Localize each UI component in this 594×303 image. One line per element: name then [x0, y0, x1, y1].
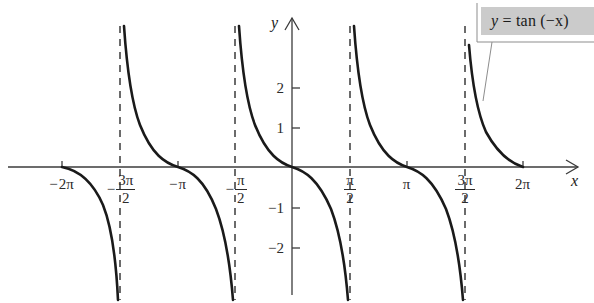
fraction-numerator: π: [235, 173, 247, 190]
x-ticklabel-neg-2pi-sign: −: [49, 177, 58, 192]
x-ticklabel-neg-2pi: −2π: [33, 176, 91, 192]
x-axis-label: x: [571, 172, 578, 190]
fraction-numerator: 3π: [455, 173, 474, 190]
legend-label-fn: tan (−x): [516, 12, 569, 29]
x-ticklabel-neg-3pi-over-2-fraction: 3π2: [116, 173, 135, 206]
legend-label-eq: =: [503, 12, 512, 29]
x-ticklabel-neg-pi-over-2: −π2: [207, 173, 265, 206]
fraction-numerator: π: [344, 173, 356, 190]
fraction-numerator: 3π: [116, 173, 135, 190]
x-ticklabel-neg-3pi-over-2: −3π2: [92, 173, 150, 206]
x-ticklabel-pi: π: [378, 176, 436, 192]
x-ticklabel-neg-pi-value: π: [178, 177, 187, 192]
fraction-denominator: 2: [455, 190, 474, 206]
legend-label: y = tan (−x): [491, 12, 569, 30]
y-ticklabel-2: 2: [262, 81, 284, 96]
fraction-denominator: 2: [235, 190, 247, 206]
x-ticklabel-2pi: 2π: [494, 176, 552, 192]
x-ticklabel-neg-3pi-over-2-sign: −: [107, 182, 116, 197]
x-ticklabel-2pi-value: 2π: [515, 177, 531, 192]
tan-branch-4: [354, 26, 463, 300]
x-ticklabel-neg-pi-over-2-fraction: π2: [235, 173, 247, 206]
x-ticklabel-pi-value: π: [403, 177, 412, 192]
x-ticklabel-neg-pi: −π: [149, 176, 207, 192]
y-axis-label: y: [271, 14, 278, 32]
x-ticklabel-3pi-over-2-fraction: 3π2: [455, 173, 474, 206]
x-ticklabel-neg-2pi-value: 2π: [59, 177, 75, 192]
legend-label-lhs: y: [491, 12, 498, 29]
y-ticklabel-1: 1: [262, 121, 284, 136]
fraction-denominator: 2: [116, 190, 135, 206]
y-axis: [285, 18, 300, 295]
tangent-function-plot: y = tan (−x) y x 2 1 −1 −2 −2π −3π2 −π −…: [0, 0, 594, 303]
legend-leader-line: [483, 42, 492, 101]
fraction-denominator: 2: [344, 190, 356, 206]
tan-branch-3: [239, 26, 348, 300]
plot-canvas: [0, 0, 594, 303]
tan-branch-5: [469, 45, 523, 167]
x-ticklabel-pi-over-2-fraction: π2: [344, 173, 356, 206]
y-ticklabel-neg-2: −2: [255, 241, 284, 256]
x-ticklabel-neg-pi-sign: −: [169, 177, 178, 192]
x-ticklabel-neg-pi-over-2-sign: −: [225, 182, 234, 197]
x-ticklabel-pi-over-2: π2: [321, 173, 379, 206]
x-ticklabel-3pi-over-2: 3π2: [436, 173, 494, 206]
